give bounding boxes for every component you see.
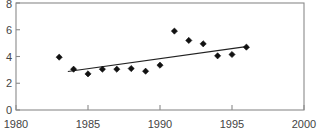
chart-container: 0 2 4 6 8 1980 1985 1990 1995 2000: [0, 0, 323, 135]
y-tick-label-6: 6: [6, 24, 12, 36]
y-tick-label-8: 8: [6, 0, 12, 10]
chart-background: [0, 0, 323, 135]
x-tick-label-1990: 1990: [148, 118, 172, 130]
x-tick-label-1980: 1980: [4, 118, 28, 130]
y-tick-label-0: 0: [6, 104, 12, 116]
x-tick-label-1995: 1995: [220, 118, 244, 130]
x-tick-label-2000: 2000: [292, 118, 316, 130]
x-tick-label-1985: 1985: [76, 118, 100, 130]
y-tick-label-4: 4: [6, 51, 12, 63]
y-tick-label-2: 2: [6, 77, 12, 89]
scatter-plot: 0 2 4 6 8 1980 1985 1990 1995 2000: [0, 0, 323, 135]
